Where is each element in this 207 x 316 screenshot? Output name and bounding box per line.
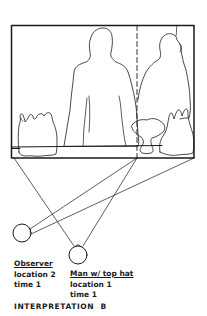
seated-figure — [138, 34, 190, 119]
sightline-man-2 — [83, 158, 137, 246]
observer-time: time 1 — [14, 280, 41, 289]
observer-title: Observer — [14, 259, 53, 268]
man-silhouette — [64, 28, 139, 146]
man-head-icon — [69, 246, 87, 264]
man-time: time 1 — [70, 290, 97, 299]
sightline-observer-2 — [31, 158, 194, 234]
sightline-observer-1 — [30, 158, 137, 229]
scene-frame — [12, 26, 195, 159]
man-location: location 1 — [70, 280, 112, 289]
bottles-right — [160, 109, 194, 155]
interpretation-caption: INTERPRETATION B — [14, 302, 107, 311]
sightline-man-1 — [14, 158, 74, 246]
observer-head-icon — [13, 224, 31, 242]
bottles-left — [18, 113, 57, 157]
man-title: Man w/ top hat — [70, 269, 133, 278]
observer-location: location 2 — [14, 270, 56, 279]
